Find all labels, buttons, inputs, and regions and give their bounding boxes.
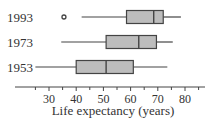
box-row-1993: 1993 — [7, 10, 181, 25]
iqr-box — [76, 61, 133, 74]
box-row-1973: 1973 — [7, 35, 173, 50]
iqr-box — [106, 36, 156, 49]
x-tick-label: 80 — [179, 92, 191, 106]
category-label: 1993 — [7, 10, 33, 25]
x-axis-title: Life expectancy (years) — [52, 103, 175, 118]
outlier-point — [62, 15, 66, 19]
boxplot-chart: 199319731953 304050607080 Life expectanc… — [0, 0, 221, 127]
box-rows: 199319731953 — [7, 10, 181, 75]
iqr-box — [127, 11, 164, 24]
category-label: 1953 — [7, 60, 33, 75]
category-label: 1973 — [7, 35, 33, 50]
box-row-1953: 1953 — [7, 60, 167, 75]
